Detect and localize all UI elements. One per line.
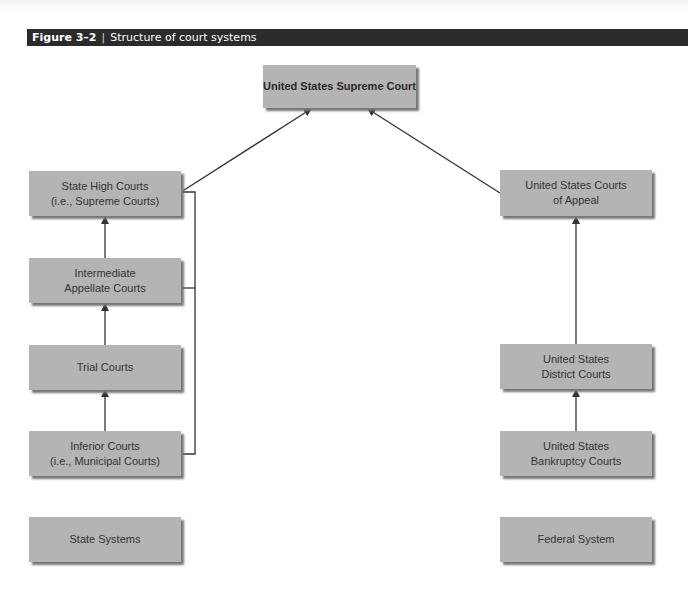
node-label: State High Courts(i.e., Supreme Courts) — [51, 179, 159, 209]
node-label-line1: State High Courts — [51, 179, 159, 194]
node-label-line1: Intermediate — [64, 266, 145, 281]
node-intermediate-appellate-courts: IntermediateAppellate Courts — [29, 258, 181, 303]
node-label-line2: (i.e., Municipal Courts) — [50, 454, 160, 469]
node-trial-courts: Trial Courts — [29, 345, 181, 390]
node-label-line1: Inferior Courts — [50, 439, 160, 454]
legend-label: State Systems — [70, 532, 141, 547]
node-us-district-courts: United StatesDistrict Courts — [500, 344, 652, 389]
legend-federal-system: Federal System — [500, 517, 652, 562]
node-label-line2: Appellate Courts — [64, 281, 145, 296]
node-label: Inferior Courts(i.e., Municipal Courts) — [50, 439, 160, 469]
state-bracket — [181, 192, 195, 454]
node-label-line1: United States — [531, 439, 621, 454]
node-us-courts-of-appeal: United States Courtsof Appeal — [500, 170, 652, 216]
node-us-bankruptcy-courts: United StatesBankruptcy Courts — [500, 431, 652, 476]
node-label-line2: Bankruptcy Courts — [531, 454, 621, 469]
arrow-federal-to-supreme — [368, 109, 500, 193]
node-label: United States Courtsof Appeal — [525, 178, 627, 208]
node-state-high-courts: State High Courts(i.e., Supreme Courts) — [29, 171, 181, 216]
node-label: United States Supreme Court — [263, 79, 416, 94]
legend-label: Federal System — [537, 532, 614, 547]
node-label-line2: District Courts — [541, 367, 610, 382]
legend-state-systems: State Systems — [29, 517, 181, 562]
node-label-line2: of Appeal — [525, 193, 627, 208]
node-inferior-courts: Inferior Courts(i.e., Municipal Courts) — [29, 431, 181, 476]
node-label-line1: United States — [541, 352, 610, 367]
node-label: IntermediateAppellate Courts — [64, 266, 145, 296]
arrow-state-to-supreme — [181, 109, 311, 192]
node-label-line1: United States Courts — [525, 178, 627, 193]
node-us-supreme-court: United States Supreme Court — [263, 65, 416, 108]
node-label: United StatesDistrict Courts — [541, 352, 610, 382]
node-label-line2: (i.e., Supreme Courts) — [51, 194, 159, 209]
node-label: United StatesBankruptcy Courts — [531, 439, 621, 469]
node-label: Trial Courts — [77, 360, 133, 375]
